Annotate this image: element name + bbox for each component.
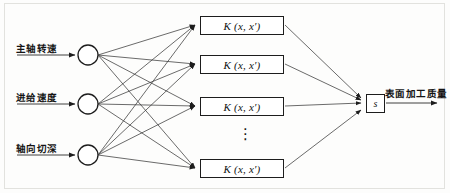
- vertical-ellipsis-icon: ⋮: [238, 127, 253, 142]
- input-label-feed-rate: 进给速度: [16, 90, 58, 104]
- input-node-3: [78, 145, 98, 165]
- kernel-box-2: K (x, x′): [200, 55, 284, 74]
- kernel-label: K (x, x′): [224, 163, 261, 175]
- kernel-label: K (x, x′): [224, 59, 261, 71]
- input-label-spindle-speed: 主轴转速: [16, 41, 58, 55]
- input-label-axial-depth: 轴向切深: [16, 141, 58, 155]
- input-node-2: [78, 94, 98, 114]
- diagram-canvas: 主轴转速 进给速度 轴向切深 K (x, x′) K (x, x′) K (x,…: [0, 0, 450, 193]
- sum-node: s: [366, 94, 385, 113]
- kernel-box-3: K (x, x′): [200, 97, 284, 116]
- output-label-surface-quality: 表面加工质量: [385, 86, 447, 100]
- kernel-box-1: K (x, x′): [200, 16, 284, 35]
- input-node-1: [78, 45, 98, 65]
- kernel-box-4: K (x, x′): [200, 159, 284, 178]
- sum-node-label: s: [374, 98, 378, 109]
- kernel-label: K (x, x′): [224, 101, 261, 113]
- kernel-label: K (x, x′): [224, 20, 261, 32]
